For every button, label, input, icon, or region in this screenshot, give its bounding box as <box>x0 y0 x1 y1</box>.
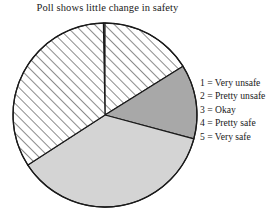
legend-item-1: 1 = Very unsafe <box>200 76 265 89</box>
legend-item-5: 5 = Very safe <box>200 130 265 143</box>
pie-chart-figure: Poll shows little change in safety 1 = V… <box>0 0 278 223</box>
legend-item-2: 2 = Pretty unsafe <box>200 89 265 102</box>
pie-slices <box>13 23 197 207</box>
legend: 1 = Very unsafe 2 = Pretty unsafe 3 = Ok… <box>200 76 265 143</box>
legend-item-4: 4 = Pretty safe <box>200 116 265 129</box>
legend-item-3: 3 = Okay <box>200 103 265 116</box>
